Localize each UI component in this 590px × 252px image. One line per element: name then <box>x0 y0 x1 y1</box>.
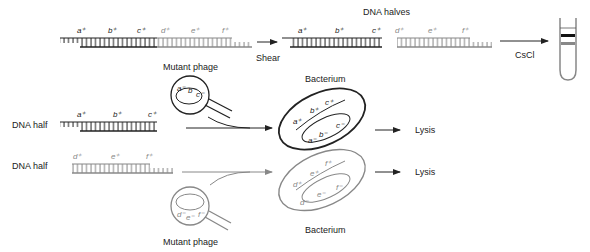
gene-label: d⁺ <box>161 26 170 35</box>
bacterium-top <box>269 76 374 162</box>
mutant-phage-bottom <box>171 187 231 230</box>
dna-halves-title: DNA halves <box>363 7 411 17</box>
gene-label: f⁻ <box>198 210 205 219</box>
gene-label: f⁺ <box>146 152 153 161</box>
gene-label: a⁺ <box>77 110 86 119</box>
row-label-dna-half: DNA half <box>12 120 48 130</box>
gene-label: c⁺ <box>148 110 157 119</box>
cscl-label: CsCl <box>515 50 535 60</box>
gene-label: a⁺ <box>77 26 86 35</box>
gene-label: a⁻ <box>177 84 186 93</box>
gene-label: d⁺ <box>73 152 82 161</box>
mutant-phage-label: Mutant phage <box>163 62 218 72</box>
gene-label: d⁺ <box>293 180 302 189</box>
gene-label: a⁺ <box>298 26 307 35</box>
diagram-canvas: a⁺ b⁺ c⁺ d⁺ e⁺ f⁺ Shear DNA halves a⁺ b⁺… <box>0 0 590 252</box>
gene-label: b⁻ <box>319 130 328 139</box>
gene-label: f⁻ <box>336 183 343 192</box>
gene-label: b⁺ <box>310 106 319 115</box>
bacterium-label: Bacterium <box>305 225 346 235</box>
gene-label: c⁺ <box>325 98 334 107</box>
bacterium-label: Bacterium <box>305 74 346 84</box>
gene-label: a⁻ <box>308 136 317 145</box>
shear-label: Shear <box>256 53 280 63</box>
gene-label: d⁻ <box>300 198 309 207</box>
gene-label: c⁺ <box>137 26 146 35</box>
gene-label: b⁺ <box>113 110 122 119</box>
gene-label: c⁺ <box>372 26 381 35</box>
gene-label: e⁺ <box>111 152 120 161</box>
gene-label: e⁺ <box>428 26 437 35</box>
gene-label: d⁺ <box>395 26 404 35</box>
lysis-label: Lysis <box>415 167 436 177</box>
gene-label: f⁺ <box>222 26 229 35</box>
gene-label: a⁺ <box>293 117 302 126</box>
lysis-label: Lysis <box>415 125 436 135</box>
heavy-band <box>561 34 575 37</box>
mutant-phage-label: Mutant phage <box>163 237 218 247</box>
full-dna-molecule <box>60 38 252 47</box>
gene-label: e⁺ <box>191 26 200 35</box>
gene-label: c⁻ <box>196 90 205 99</box>
gene-label: b⁺ <box>335 26 344 35</box>
bacterium-bottom <box>269 137 374 223</box>
gene-label: f⁺ <box>325 159 332 168</box>
gene-label: c⁻ <box>336 121 345 130</box>
dna-half-light-bottom <box>72 164 173 173</box>
gene-label: e⁻ <box>317 190 326 199</box>
dna-half-light <box>397 38 492 47</box>
centrifuge-tube <box>560 18 576 80</box>
row-label-dna-half: DNA half <box>12 161 48 171</box>
gene-label: e⁻ <box>186 213 195 222</box>
dna-half-dark-middle <box>60 122 157 131</box>
gene-label: e⁺ <box>310 169 319 178</box>
gene-label: b⁺ <box>108 26 117 35</box>
gene-label: f⁺ <box>462 26 469 35</box>
dna-half-dark <box>282 38 382 47</box>
light-band <box>561 42 575 45</box>
